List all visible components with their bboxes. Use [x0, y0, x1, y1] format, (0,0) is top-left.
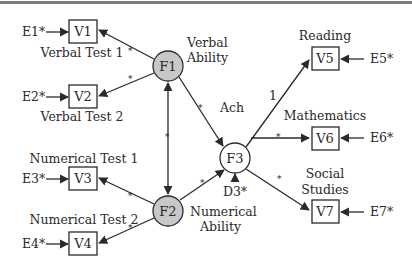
observed-v4: Numerical Test 2 V4 — [30, 212, 139, 255]
path-f2-v3 — [99, 178, 154, 204]
label-v2: V2 — [73, 89, 92, 104]
caption-v4: Numerical Test 2 — [30, 212, 139, 227]
observed-v6: Mathematics V6 E6* — [284, 108, 394, 150]
caption-f1-line2: Ability — [186, 50, 229, 65]
observed-v5: Reading V5 E5* — [299, 28, 394, 70]
latent-f2: F2 Numerical Ability — [153, 196, 257, 234]
label-f3: F3 — [226, 151, 243, 166]
coef-f3-v7: * — [277, 174, 282, 184]
latent-f1: F1 Verbal Ability — [153, 35, 229, 81]
latent-f3: Ach F3 D3* — [219, 100, 250, 199]
label-v5: V5 — [315, 51, 334, 66]
caption-v2: Verbal Test 2 — [40, 109, 124, 124]
caption-v7-line1: Social — [306, 166, 345, 181]
observed-v1: V1 Verbal Test 1 — [40, 20, 124, 60]
error-e4: E4* — [22, 236, 46, 251]
coef-f2-v4: * — [128, 223, 133, 233]
label-f1: F1 — [159, 59, 176, 74]
observed-v3: Numerical Test 1 V3 — [30, 151, 139, 190]
caption-f1-line1: Verbal — [186, 35, 228, 50]
caption-f2-line1: Numerical — [190, 204, 257, 219]
caption-v5: Reading — [299, 28, 351, 43]
caption-v6: Mathematics — [284, 108, 366, 123]
sem-path-diagram: E1* E2* E3* E4* V1 Verbal Test 1 V2 Verb… — [0, 0, 412, 271]
coef-f1-f3: * — [198, 103, 203, 113]
coef-f3-v6: * — [276, 132, 281, 142]
path-f1-v2 — [99, 73, 154, 96]
disturbance-d3: D3* — [223, 184, 248, 199]
error-e2: E2* — [22, 89, 46, 104]
label-v3: V3 — [73, 171, 92, 186]
coef-f2-f3: * — [200, 178, 205, 188]
coef-f1-f2: * — [165, 132, 170, 142]
label-v7: V7 — [315, 204, 334, 219]
caption-v7-line2: Studies — [301, 182, 348, 197]
error-e6: E6* — [370, 130, 394, 145]
top-rule — [0, 1, 412, 4]
coef-f2-v3: * — [128, 191, 133, 201]
caption-f2-line2: Ability — [199, 219, 242, 234]
caption-v1: Verbal Test 1 — [40, 45, 124, 60]
coef-f1-v2: * — [128, 74, 133, 84]
error-e7: E7* — [370, 204, 394, 219]
label-v4: V4 — [73, 236, 92, 251]
label-f2: F2 — [159, 204, 176, 219]
caption-v3: Numerical Test 1 — [30, 151, 139, 166]
label-v1: V1 — [73, 24, 92, 39]
caption-f3: Ach — [219, 100, 244, 115]
error-e3: E3* — [22, 171, 46, 186]
coef-f1-v1: * — [128, 46, 133, 56]
label-v6: V6 — [315, 131, 334, 146]
error-e1: E1* — [22, 24, 46, 39]
coef-f3-v5: 1 — [269, 88, 277, 103]
error-e5: E5* — [370, 51, 394, 66]
observed-v7: Social Studies V7 E7* — [301, 166, 394, 223]
